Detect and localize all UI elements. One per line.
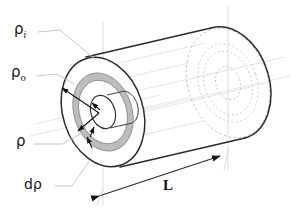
label-outer-radius-subscript: o — [21, 73, 26, 83]
label-shell-thickness: dρ — [24, 177, 42, 191]
label-inner-radius: ρi — [14, 22, 26, 40]
label-length: L — [163, 178, 173, 193]
extension-line-left — [97, 188, 103, 205]
extension-line-right — [224, 150, 228, 170]
silhouette-top — [86, 28, 211, 57]
label-outer-radius-symbol: ρ — [11, 63, 21, 81]
diagram-canvas: ρi ρo ρ dρ L — [0, 0, 303, 209]
label-inner-radius-symbol: ρ — [14, 20, 24, 38]
label-shell-radius-symbol: ρ — [16, 132, 26, 150]
cylinder-figure — [0, 0, 303, 209]
differential-shell — [50, 55, 160, 170]
label-outer-radius: ρo — [11, 65, 26, 83]
label-shell-radius: ρ — [16, 134, 26, 149]
label-inner-radius-subscript: i — [24, 30, 27, 40]
